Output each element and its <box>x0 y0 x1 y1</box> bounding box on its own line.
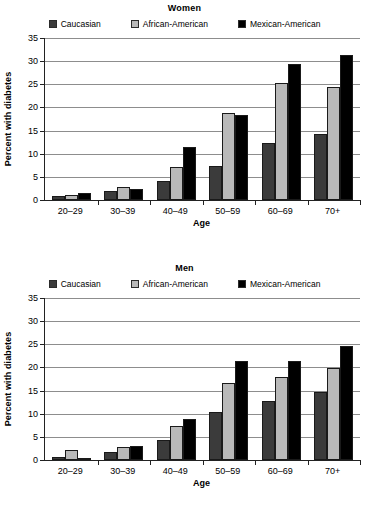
legend-label-caucasian: Caucasian <box>61 279 101 289</box>
x-axis-category-label: 50–59 <box>202 466 255 476</box>
x-axis-category-label: 30–39 <box>97 466 150 476</box>
bar <box>209 166 222 200</box>
chart-title-men: Men <box>0 260 369 275</box>
bar <box>183 419 196 460</box>
bar-group <box>98 298 151 460</box>
x-axis-tick <box>203 460 204 465</box>
bar <box>130 446 143 460</box>
bar <box>157 181 170 200</box>
bar <box>314 134 327 200</box>
x-axis-tick <box>98 200 99 205</box>
bar <box>275 377 288 460</box>
legend-swatch-african-american <box>131 280 139 288</box>
bar <box>104 452 117 460</box>
y-axis-tick-label: 5 <box>33 432 38 442</box>
bar <box>117 447 130 460</box>
bar-group <box>150 38 203 200</box>
bar <box>170 167 183 200</box>
legend-swatch-mexican-american <box>238 280 246 288</box>
y-axis-tick <box>40 200 45 201</box>
legend-label-mexican-american: Mexican-American <box>250 19 320 29</box>
bar-group <box>45 298 98 460</box>
y-axis-tick-label: 25 <box>28 79 38 89</box>
y-axis-tick-label: 20 <box>28 362 38 372</box>
legend-swatch-caucasian <box>49 20 57 28</box>
bar <box>183 147 196 200</box>
chart-legend-men: Caucasian African-American Mexican-Ameri… <box>0 276 369 292</box>
legend-swatch-african-american <box>131 20 139 28</box>
bar <box>170 426 183 460</box>
x-axis-tick <box>308 460 309 465</box>
bar <box>275 83 288 200</box>
bar-group <box>150 298 203 460</box>
bar-groups-men <box>45 298 360 460</box>
y-axis-tick-label: 15 <box>28 126 38 136</box>
x-axis-tick <box>98 460 99 465</box>
x-axis-labels-men: 20–2930–3940–4950–5960–6970+ <box>44 466 359 476</box>
x-axis-tick <box>255 460 256 465</box>
bar <box>235 115 248 200</box>
legend-swatch-mexican-american <box>238 20 246 28</box>
bar <box>209 412 222 460</box>
x-axis-title-women: Age <box>44 218 359 228</box>
y-axis-tick-label: 20 <box>28 102 38 112</box>
bar <box>104 191 117 200</box>
legend-label-mexican-american: Mexican-American <box>250 279 320 289</box>
plot-women: 05101520253035 <box>44 38 360 201</box>
bar-group <box>308 38 361 200</box>
bar <box>65 195 78 200</box>
bar <box>340 55 353 200</box>
legend-label-caucasian: Caucasian <box>61 19 101 29</box>
bar-group <box>308 298 361 460</box>
y-axis-tick-label: 30 <box>28 316 38 326</box>
bar <box>288 361 301 460</box>
y-axis-tick-label: 10 <box>28 149 38 159</box>
x-axis-tick <box>203 200 204 205</box>
chart-panel-men: Men Caucasian African-American Mexican-A… <box>0 260 369 520</box>
y-axis-tick <box>40 460 45 461</box>
bar <box>52 457 65 460</box>
plot-area-men: Percent with diabetes 05101520253035 20–… <box>0 292 369 488</box>
x-axis-labels-women: 20–2930–3940–4950–5960–6970+ <box>44 206 359 216</box>
x-axis-category-label: 70+ <box>307 206 360 216</box>
legend-item-caucasian: Caucasian <box>49 279 101 289</box>
x-axis-tick <box>150 460 151 465</box>
legend-item-mexican-american: Mexican-American <box>238 19 320 29</box>
x-axis-tick <box>360 200 361 205</box>
x-axis-category-label: 30–39 <box>97 206 150 216</box>
plot-men: 05101520253035 <box>44 298 360 461</box>
bar <box>314 392 327 460</box>
bar-group <box>255 38 308 200</box>
x-axis-category-label: 70+ <box>307 466 360 476</box>
y-axis-tick-label: 0 <box>33 195 38 205</box>
x-axis-category-label: 50–59 <box>202 206 255 216</box>
bar-group <box>45 38 98 200</box>
legend-item-african-american: African-American <box>131 19 208 29</box>
chart-legend-women: Caucasian African-American Mexican-Ameri… <box>0 16 369 32</box>
x-axis-tick <box>150 200 151 205</box>
bar <box>222 383 235 460</box>
x-axis-tick <box>360 460 361 465</box>
bar-group <box>203 298 256 460</box>
chart-title-women: Women <box>0 0 369 15</box>
legend-item-mexican-american: Mexican-American <box>238 279 320 289</box>
bar-group <box>98 38 151 200</box>
plot-area-women: Percent with diabetes 05101520253035 20–… <box>0 32 369 228</box>
bar <box>65 450 78 460</box>
bar-group <box>203 38 256 200</box>
bar <box>262 401 275 460</box>
bar <box>327 87 340 200</box>
bar <box>157 440 170 460</box>
legend-item-african-american: African-American <box>131 279 208 289</box>
y-axis-tick-label: 25 <box>28 339 38 349</box>
legend-label-african-american: African-American <box>143 19 208 29</box>
bar <box>130 189 143 200</box>
bar <box>117 187 130 200</box>
legend-item-caucasian: Caucasian <box>49 19 101 29</box>
y-axis-tick-label: 0 <box>33 455 38 465</box>
bar <box>327 368 340 460</box>
x-axis-tick <box>255 200 256 205</box>
x-axis-category-label: 40–49 <box>149 206 202 216</box>
bar-group <box>255 298 308 460</box>
bar <box>78 193 91 200</box>
